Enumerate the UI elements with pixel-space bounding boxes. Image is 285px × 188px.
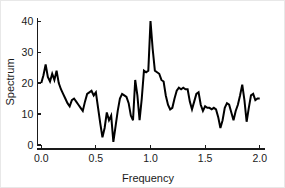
y-tick-label: 20: [22, 77, 34, 89]
spectrum-plot: 010203040 0.00.51.01.52.0 Frequency Spec…: [0, 0, 285, 188]
x-axis-title: Frequency: [122, 172, 174, 184]
y-tick-label: 0: [27, 139, 33, 151]
spectrum-chart-figure: 010203040 0.00.51.01.52.0 Frequency Spec…: [0, 0, 285, 188]
x-tick-label: 0.5: [89, 152, 104, 164]
y-tick-label: 40: [22, 15, 34, 27]
x-tick-label: 2.0: [252, 152, 267, 164]
y-tick-label: 30: [22, 46, 34, 58]
x-tick-label: 1.0: [143, 152, 158, 164]
y-axis: 010203040: [22, 15, 42, 151]
x-tick-label: 1.5: [198, 152, 213, 164]
x-axis: 0.00.51.01.52.0: [34, 145, 267, 164]
x-tick-labels: 0.00.51.01.52.0: [34, 152, 267, 164]
spectrum-data-line: [41, 21, 259, 142]
y-tick-marks: [37, 21, 41, 145]
y-tick-labels: 010203040: [22, 15, 34, 151]
y-tick-label: 10: [22, 108, 34, 120]
y-axis-title: Spectrum: [4, 58, 16, 105]
x-tick-marks: [41, 145, 259, 149]
x-tick-label: 0.0: [34, 152, 49, 164]
